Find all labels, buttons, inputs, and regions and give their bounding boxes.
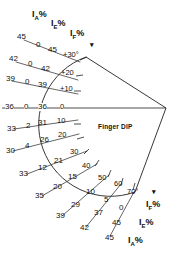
value-ie-p20: 0: [28, 60, 32, 68]
leader-line-m70: [110, 192, 134, 236]
angle-tick-m50: 50: [98, 174, 106, 182]
value-ia-0: 36: [5, 103, 14, 111]
value-ia-m40: 35: [35, 192, 44, 200]
header-label-ia-bottom: IA%: [128, 236, 143, 249]
angle-tick-m10: 10: [57, 117, 65, 125]
value-if-m70: 0: [119, 204, 123, 212]
angle-tick-m60: 60: [114, 180, 122, 188]
value-if-m50: 10: [86, 188, 95, 196]
angle-tick-p30: +30°: [63, 51, 79, 59]
value-if-m30: 21: [54, 157, 63, 165]
value-ie-0: 0: [24, 103, 28, 111]
header-label-ie-top: IE%: [51, 19, 66, 32]
angle-tick-0: 0: [60, 103, 64, 111]
value-ia-p30: 45: [17, 33, 26, 41]
value-if-m10: 31: [38, 119, 47, 127]
wedge-lower-edge: [135, 108, 166, 192]
value-ie-m30: 12: [38, 164, 47, 172]
value-if-p10: 39: [38, 81, 47, 89]
value-if-m20: 26: [40, 136, 49, 144]
header-label-ia-top: IA%: [32, 10, 47, 23]
arc-tick-p20: [76, 75, 83, 76]
header-label-if-bottom: IF%: [146, 200, 160, 213]
value-ie-m40: 20: [53, 183, 62, 191]
value-ie-p10: 0: [25, 78, 29, 86]
value-ia-p20: 42: [9, 55, 18, 63]
value-ie-m10: 2: [26, 122, 30, 130]
arc-tick-m40: [95, 160, 99, 166]
value-ie-m50: 29: [71, 201, 80, 209]
value-ia-m20: 30: [6, 147, 15, 155]
angle-tick-m20: 20: [58, 131, 66, 139]
arc-tick-m50: [108, 170, 111, 177]
arc-tick-m20: [77, 137, 84, 139]
value-ia-p10: 39: [6, 75, 15, 83]
diagram-svg: [0, 0, 174, 273]
angle-tick-m30: 30: [70, 148, 78, 156]
angle-tick-m40: 40: [82, 162, 90, 170]
value-if-m60: 5: [104, 196, 108, 204]
value-if-p20: 42: [41, 65, 50, 73]
angle-tick-p10: +10: [60, 85, 73, 93]
angle-tick-m70: 70°: [127, 188, 138, 196]
value-ia-m60: 42: [80, 224, 89, 232]
value-ie-m20: 4: [25, 142, 29, 150]
value-ie-m70: 45: [112, 219, 121, 227]
header-label-ie-bottom: IE%: [139, 218, 154, 231]
value-if-m40: 15: [68, 173, 77, 181]
value-ia-m50: 39: [56, 212, 65, 220]
center-label-finger-dip: Finger DIP: [98, 123, 133, 130]
header-label-if-top: IF%: [70, 29, 84, 42]
down-arrow-icon-bottom: ▾: [152, 188, 156, 195]
angle-tick-p20: +20: [61, 69, 74, 77]
value-ia-m30: 33: [19, 170, 28, 178]
value-ia-m70: 45: [105, 234, 114, 242]
value-ia-m10: 33: [7, 125, 16, 133]
value-if-0: 36: [38, 103, 47, 111]
value-if-p30: 45: [48, 46, 57, 54]
diagram-root: IA% IE% IF% ▾ Finger DIP 45 0 45 +30° 42…: [0, 0, 174, 273]
down-arrow-icon-top: ▾: [90, 41, 94, 48]
value-ie-p30: 0: [36, 41, 40, 49]
value-ie-m60: 37: [94, 209, 103, 217]
wedge-upper-edge: [86, 57, 166, 108]
